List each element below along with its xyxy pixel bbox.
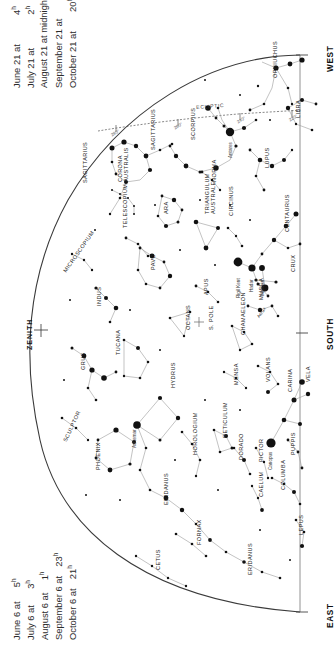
legend-lower-row-4: October 6 at 21h <box>66 565 78 640</box>
zenith-label: ZENITH <box>26 319 33 350</box>
constellation-label-scorpius: SCORPIUS <box>190 108 196 140</box>
legend-lower-time-2: 1 <box>39 575 50 580</box>
constellation-label-apus: APUS <box>203 278 209 295</box>
legend-lower-date-0: June 6 at <box>11 601 22 640</box>
legend-lower-unit-4: h <box>66 565 73 569</box>
legend-lower-time-3: 23 <box>53 556 64 566</box>
constellation-label-libra: LIBRA <box>295 100 301 118</box>
constellation-label-mensa: MENSA <box>233 363 239 385</box>
legend-lower-time-1: 3 <box>25 584 36 589</box>
constellation-label-eridanus-2: ERIDANUS <box>247 543 253 575</box>
constellation-label-lepus: LEPUS <box>298 515 304 535</box>
legend-upper-row-1: July 21 at 2h <box>24 6 36 88</box>
legend-lower-date-2: August 6 at <box>39 593 50 640</box>
cardinal-east: EAST <box>326 603 334 628</box>
legend-upper-unit-1: h <box>24 6 31 10</box>
constellation-label-corona-australis: CORONA AUSTRALIS <box>117 132 130 182</box>
constellation-label-dorado: DORADO <box>238 433 244 460</box>
constellation-label-ara: ARA <box>163 201 169 214</box>
constellation-label-chamaeleon: CHAMAELEON <box>240 292 246 335</box>
legend-upper-date-2: August 21 at midnight <box>38 0 49 88</box>
constellation-label-pictor: PICTOR <box>258 439 264 462</box>
star-label-achernar: Achernar <box>132 429 137 448</box>
legend-lower-time-0: 5 <box>11 582 22 587</box>
legend-upper-unit-0: h <box>10 6 17 10</box>
legend-upper-unit-4: h <box>66 0 73 2</box>
constellation-label-phoenix: PHOENIX <box>95 442 101 470</box>
star-label-antares: Antares <box>228 142 233 158</box>
legend-upper-time-4: 20 <box>67 2 78 12</box>
constellation-label-puppis: PUPPIS <box>290 432 296 455</box>
legend-lower-row-0: June 6 at 5h <box>10 578 22 640</box>
horizon-arc <box>30 55 300 612</box>
legend-upper-date-1: July 21 at <box>25 48 36 88</box>
ecliptic-line <box>98 110 302 131</box>
legend-lower-time-4: 21 <box>67 569 78 579</box>
legend-lower-row-2: August 6 at 1h <box>38 572 50 640</box>
legend-lower-date-4: October 6 at <box>67 588 78 640</box>
constellation-label-triangulum-australe: TRIANGULUM AUSTRALE <box>204 162 217 214</box>
legend-upper-row-4: October 21 at 20h <box>66 0 78 88</box>
south-pole-marker <box>194 317 204 327</box>
cardinal-south: SOUTH <box>326 318 334 350</box>
legend-upper-time-0: 4 <box>11 10 22 15</box>
zenith-marker <box>34 324 48 337</box>
constellation-label-centaurus: CENTAURUS <box>284 194 290 232</box>
legend-lower-unit-3: h <box>52 553 59 557</box>
legend-lower-date-3: September 6 at <box>53 576 64 640</box>
cardinal-west: WEST <box>326 46 334 72</box>
constellation-label-telescopium: TELESCOPIUM <box>122 184 128 228</box>
legend-upper-time-1: 2 <box>25 9 36 14</box>
star-chart: WEST SOUTH EAST ZENITH ECLIPTIC 280° 260… <box>0 0 334 647</box>
constellation-label-crux: CRUX <box>290 255 296 272</box>
constellation-label-carina: CARINA <box>287 369 293 392</box>
legend-lower-unit-1: h <box>24 580 31 584</box>
constellation-label-sagittarius-1: SAGITTARIUS <box>150 109 156 150</box>
legend-lower-date-1: July 6 at <box>25 605 36 640</box>
constellation-label-columba: COLUMBA <box>280 460 286 490</box>
legend-upper-date-0: June 21 at <box>11 44 22 88</box>
constellation-label-circinus: CIRCINUS <box>228 186 234 216</box>
star-label-canopus: Canopus <box>268 452 273 470</box>
constellation-label-grus: GRUS <box>80 352 86 370</box>
constellation-label-pavo: PAVO <box>150 254 156 270</box>
constellation-label-horologium: HOROLOGIUM <box>192 412 198 455</box>
constellation-label-hydrus: HYDRUS <box>170 362 176 388</box>
legend-lower-unit-0: h <box>10 578 17 582</box>
constellation-label-south-pole: S. POLE <box>208 305 214 330</box>
constellation-label-eridanus-1: ERIDANUS <box>163 473 169 505</box>
constellation-label-cetus: CETUS <box>155 549 161 570</box>
constellation-label-tucana: TUCANA <box>115 330 121 355</box>
sky-map <box>0 0 334 647</box>
constellation-label-volans: VOLANS <box>265 357 271 382</box>
legend-upper-row-3: September 21 at 22h <box>52 0 64 88</box>
legend-upper-date-3: September 21 at <box>53 19 64 88</box>
star-label-mimosa: Mimosa <box>260 280 265 296</box>
legend-lower-row-1: July 6 at 3h <box>24 580 36 640</box>
star-label-hadar: Hadar <box>249 279 254 292</box>
constellation-label-fornax: FORNAX <box>196 519 202 545</box>
legend-upper-row-0: June 21 at 4h <box>10 6 22 88</box>
constellation-label-indus: INDUS <box>96 287 102 306</box>
legend-upper-date-4: October 21 at <box>67 31 78 88</box>
constellation-label-ophiuchus: OPHIUCHUS <box>272 41 278 78</box>
constellation-label-vela: VELA <box>305 366 311 382</box>
constellation-label-reticulum: RETICULUM <box>222 402 228 438</box>
legend-lower-unit-2: h <box>38 572 45 576</box>
constellation-label-lupus: LUPUS <box>264 147 270 168</box>
legend-upper-row-2: August 21 at midnight <box>38 0 49 88</box>
constellation-label-octans: OCTANS <box>185 305 191 330</box>
legend-lower-row-3: September 6 at 23h <box>52 553 64 640</box>
constellation-label-caelum: CAELUM <box>258 471 264 497</box>
constellation-label-sagittarius-2: SAGITTARIUS <box>82 142 88 183</box>
star-label-rigil-kent: Rigil Kent <box>236 278 241 298</box>
